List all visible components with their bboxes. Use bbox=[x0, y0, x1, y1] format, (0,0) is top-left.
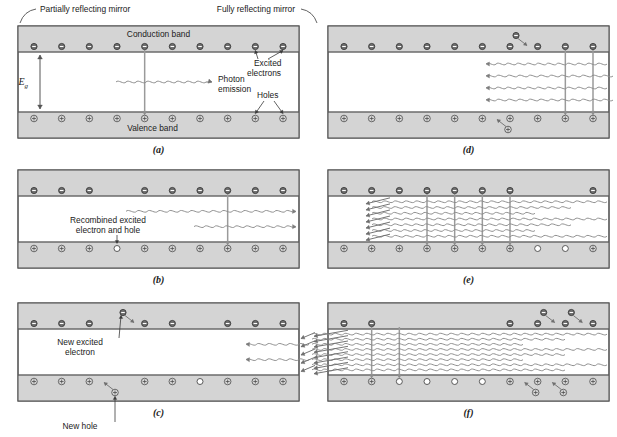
empty-state-circle bbox=[424, 379, 430, 385]
photon-emission-label-2: emission bbox=[218, 84, 251, 94]
panel-letter-f: (f) bbox=[464, 407, 474, 419]
recombined-label-1: Recombined excited bbox=[70, 215, 146, 225]
new-excited-label-2: electron bbox=[65, 347, 95, 357]
photon-wave bbox=[312, 343, 523, 345]
panel-letter-e: (e) bbox=[463, 274, 474, 286]
panel-letter-b: (b) bbox=[153, 274, 165, 286]
figure-canvas: (a)Conduction bandValence bandPartially … bbox=[0, 0, 617, 437]
laser-operation-figure: (a)Conduction bandValence bandPartially … bbox=[0, 0, 617, 437]
conduction-band-label: Conduction band bbox=[127, 29, 191, 39]
partially-reflecting-mirror-label: Partially reflecting mirror bbox=[40, 4, 130, 14]
valence-band-label: Valence band bbox=[127, 123, 178, 133]
full-mirror-leader bbox=[301, 9, 317, 23]
arrow-head bbox=[314, 334, 318, 338]
new-hole-label: New hole bbox=[63, 421, 98, 431]
panel-e: (e) bbox=[328, 170, 609, 286]
panel-c: (c)New excitedelectronNew hole bbox=[18, 303, 315, 431]
empty-state-circle bbox=[535, 246, 541, 252]
partial-mirror-leader bbox=[20, 9, 36, 23]
arrow-head bbox=[314, 350, 318, 354]
arrow-head bbox=[314, 371, 318, 375]
empty-state-circle bbox=[396, 379, 402, 385]
panel-b: (b)Recombined excitedelectron and hole bbox=[18, 170, 299, 286]
holes-label: Holes bbox=[257, 90, 278, 100]
empty-state-circle bbox=[479, 379, 485, 385]
empty-state-circle bbox=[452, 379, 458, 385]
panel-f: (f) bbox=[312, 303, 609, 419]
arrow-head bbox=[314, 344, 318, 348]
empty-state-circle bbox=[114, 246, 120, 252]
arrow-head bbox=[314, 339, 318, 343]
excited-electrons-label-1: Excited bbox=[254, 58, 282, 68]
excited-electrons-label-2: electrons bbox=[247, 68, 281, 78]
recombined-label-2: electron and hole bbox=[76, 225, 141, 235]
panel-letter-a: (a) bbox=[153, 144, 165, 156]
panel-d: (d) bbox=[328, 26, 613, 156]
fully-reflecting-mirror-label: Fully reflecting mirror bbox=[217, 4, 295, 14]
photon-emission-label-1: Photon bbox=[218, 74, 245, 84]
photon-wave bbox=[312, 359, 523, 361]
new-excited-label-1: New excited bbox=[57, 337, 103, 347]
empty-state-circle bbox=[197, 379, 203, 385]
panel-a: (a)Conduction bandValence bandPartially … bbox=[17, 4, 317, 156]
empty-state-circle bbox=[562, 246, 568, 252]
panel-letter-d: (d) bbox=[463, 144, 475, 156]
panel-letter-c: (c) bbox=[153, 407, 164, 419]
